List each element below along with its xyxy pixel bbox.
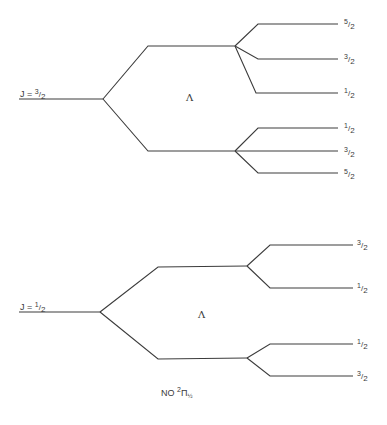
bottom-j-1-2-tree [19, 245, 353, 376]
j-equals-text: J = [20, 89, 35, 99]
lambda-lower-level [100, 312, 247, 359]
f-label-top-upper-0: 5/2 [344, 21, 355, 29]
hf-level-upper-1-2 [247, 266, 353, 288]
lambda-upper-level [103, 46, 235, 99]
f-label-bottom-lower-1: 3/2 [357, 373, 368, 381]
lambda-upper-level [100, 266, 247, 312]
omega-subscript: ½ [187, 393, 192, 399]
lambda-doubling-label-bottom: Λ [198, 309, 205, 320]
f-label-bottom-upper-1: 1/2 [357, 285, 368, 293]
hf-level-upper-5-2 [235, 24, 338, 46]
j-label-bottom: J = 1/2 [20, 303, 45, 312]
f-label-bottom-lower-0: 1/2 [357, 341, 368, 349]
diagram-title: NO 2Π½ [161, 386, 192, 399]
f-label-top-upper-1: 3/2 [344, 56, 355, 64]
f-label-top-lower-0: 1/2 [344, 125, 355, 133]
hf-level-lower-1-2 [235, 128, 338, 151]
hf-level-upper-3-2 [247, 245, 353, 266]
hf-level-upper-1-2 [235, 46, 338, 93]
hf-level-lower-3-2 [247, 358, 353, 376]
j-label-top: J = 3/2 [20, 90, 45, 99]
f-label-top-lower-2: 5/2 [344, 171, 355, 179]
lambda-lower-level [103, 99, 235, 151]
top-j-3-2-tree [19, 24, 338, 173]
f-label-top-upper-2: 1/2 [344, 90, 355, 98]
j-equals-text: J = [20, 302, 35, 312]
molecule-name: NO [161, 388, 175, 398]
j-value-fraction: 3/2 [35, 90, 46, 99]
f-label-top-lower-1: 3/2 [344, 149, 355, 157]
j-value-fraction: 1/2 [35, 303, 46, 312]
energy-level-diagram [0, 0, 387, 425]
hf-level-lower-5-2 [235, 151, 338, 173]
hf-level-upper-3-2 [235, 46, 338, 59]
lambda-doubling-label-top: Λ [186, 92, 193, 103]
f-label-bottom-upper-0: 3/2 [357, 242, 368, 250]
hf-level-lower-1-2 [247, 344, 353, 358]
fraction-numerator: 1 [35, 301, 39, 308]
fraction-numerator: 3 [35, 88, 39, 95]
fraction-denominator: 2 [41, 305, 45, 314]
fraction-denominator: 2 [41, 92, 45, 101]
